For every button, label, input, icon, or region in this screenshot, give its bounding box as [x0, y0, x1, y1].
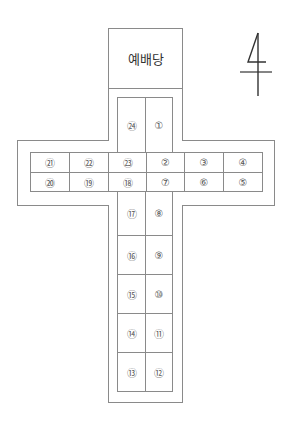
north-marker-icon: [226, 30, 276, 100]
outline-line: [182, 205, 183, 403]
seat-cell-c16: ⑯: [117, 235, 146, 275]
seat-cell-c14: ⑭: [117, 313, 146, 353]
seat-cell-c23: ㉓: [108, 152, 147, 173]
seat-cell-c2: ②: [146, 152, 185, 173]
outline-line: [17, 140, 18, 206]
seat-cell-c4: ④: [223, 152, 263, 173]
seat-cell-c6: ⑥: [184, 172, 224, 192]
seat-cell-c24: ㉔: [117, 97, 146, 153]
outline-line: [182, 88, 183, 141]
outline-line: [108, 88, 109, 141]
church-label: 예배당: [108, 28, 183, 88]
seat-cell-c13: ⑬: [117, 352, 146, 392]
outline-line: [182, 140, 275, 141]
seat-cell-c5: ⑤: [223, 172, 263, 192]
seat-cell-c7: ⑦: [146, 172, 185, 192]
seat-cell-c19: ⑲: [69, 172, 109, 192]
outline-line: [274, 140, 275, 206]
seat-cell-c1: ①: [145, 97, 173, 153]
outline-line: [108, 205, 109, 403]
seat-cell-c17: ⑰: [117, 191, 146, 236]
seat-cell-c22: ㉒: [69, 152, 109, 173]
seat-cell-c12: ⑫: [145, 352, 173, 392]
seat-cell-c11: ⑪: [145, 313, 173, 353]
seat-cell-c3: ③: [184, 152, 224, 173]
seat-cell-c10: ⑩: [145, 274, 173, 314]
seat-cell-c18: ⑱: [108, 172, 147, 192]
seat-cell-c8: ⑧: [145, 191, 173, 236]
outline-line: [108, 402, 183, 403]
seat-cell-c21: ㉑: [30, 152, 70, 173]
outline-line: [182, 205, 275, 206]
outline-line: [17, 140, 109, 141]
seat-cell-c15: ⑮: [117, 274, 146, 314]
outline-line: [17, 205, 109, 206]
seat-cell-c20: ⑳: [30, 172, 70, 192]
seat-cell-c9: ⑨: [145, 235, 173, 275]
